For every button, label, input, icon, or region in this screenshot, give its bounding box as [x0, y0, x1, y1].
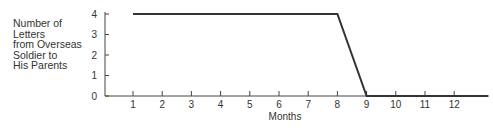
line-chart: 01234123456789101112 Months: [0, 0, 493, 132]
y-tick-label: 2: [91, 50, 97, 61]
x-tick-label: 12: [449, 99, 461, 110]
ticks: 01234123456789101112: [91, 9, 460, 111]
x-tick-label: 5: [247, 99, 253, 110]
x-tick-label: 3: [189, 99, 195, 110]
x-tick-label: 8: [335, 99, 341, 110]
x-axis-label: Months: [269, 111, 302, 122]
y-tick-label: 0: [91, 91, 97, 102]
x-tick-label: 9: [364, 99, 370, 110]
x-tick-label: 1: [130, 99, 136, 110]
x-tick-label: 4: [218, 99, 224, 110]
y-tick-label: 4: [91, 9, 97, 20]
x-tick-label: 2: [159, 99, 165, 110]
y-tick-label: 1: [91, 70, 97, 81]
axes: [105, 12, 489, 96]
x-tick-label: 6: [276, 99, 282, 110]
x-tick-label: 7: [305, 99, 311, 110]
x-tick-label: 10: [390, 99, 402, 110]
data-line: [133, 14, 488, 96]
y-tick-label: 3: [91, 29, 97, 40]
x-tick-label: 11: [420, 99, 431, 110]
